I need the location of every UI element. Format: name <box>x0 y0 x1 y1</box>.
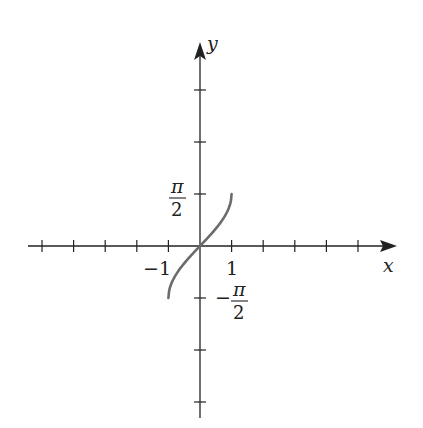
x-tick-label-one: 1 <box>226 257 238 279</box>
x-axis <box>28 240 397 252</box>
arcsin-plot: y x −1 1 π 2 − π 2 <box>0 0 423 428</box>
x-axis-label: x <box>383 254 394 276</box>
x-tick-label-neg-one: −1 <box>143 257 171 279</box>
y-tick-label-pi-over-2: π 2 <box>169 175 186 220</box>
y-tick-label-neg-pi-over-2: − π 2 <box>215 278 248 323</box>
svg-text:−: − <box>215 286 231 308</box>
y-axis-label: y <box>206 32 218 54</box>
y-axis <box>194 42 206 418</box>
svg-text:2: 2 <box>233 302 244 323</box>
svg-text:2: 2 <box>171 199 182 220</box>
svg-text:π: π <box>170 175 184 197</box>
svg-text:π: π <box>232 278 246 300</box>
